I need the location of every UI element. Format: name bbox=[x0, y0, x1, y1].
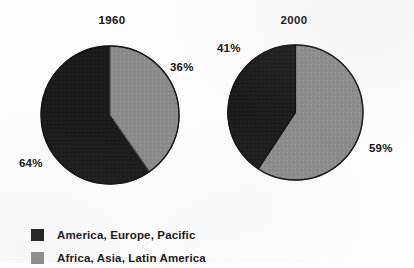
pie-chart-2000 bbox=[227, 44, 364, 181]
pie-label-1960-light: 36% bbox=[170, 61, 194, 73]
legend-item-africa-asia-latin-america: Africa, Asia, Latin America bbox=[31, 249, 206, 267]
legend-item-america-europe-pacific: America, Europe, Pacific bbox=[31, 226, 206, 244]
chart-title-1960: 1960 bbox=[86, 14, 138, 26]
pie-label-2000-light: 59% bbox=[369, 142, 393, 154]
legend-swatch-light-icon bbox=[31, 252, 44, 264]
pie-chart-1960 bbox=[40, 45, 180, 185]
pie-label-1960-dark: 64% bbox=[19, 157, 43, 169]
pie-label-2000-dark: 41% bbox=[217, 42, 241, 54]
chart-title-2000: 2000 bbox=[268, 14, 320, 26]
legend-label-dark: America, Europe, Pacific bbox=[57, 229, 195, 241]
legend-label-light: Africa, Asia, Latin America bbox=[57, 252, 206, 264]
legend-swatch-dark-icon bbox=[31, 229, 44, 241]
legend: America, Europe, Pacific Africa, Asia, L… bbox=[31, 226, 206, 268]
